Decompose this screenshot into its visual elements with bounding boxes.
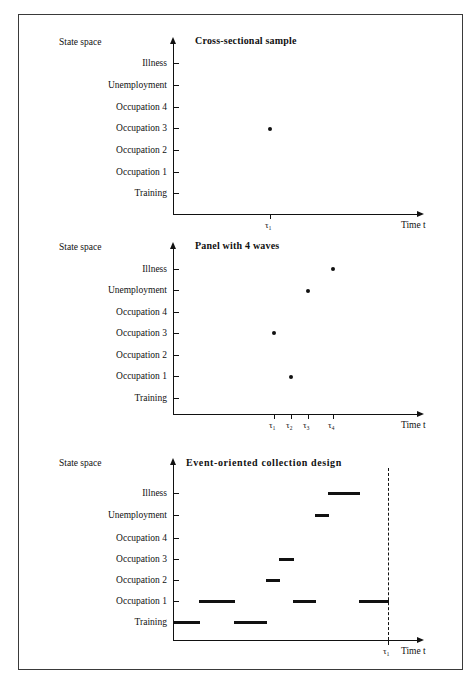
panel3-spell-unemployment	[315, 514, 329, 517]
panel2-xtick-tau3	[308, 414, 309, 419]
panel3-state-space-label: State space	[59, 458, 101, 468]
panel2-x-axis	[173, 414, 419, 415]
panel3-ylabel-illness: Illness	[55, 488, 167, 498]
panel3-ytick-unemployment	[173, 515, 179, 516]
panel1-datapoint-occupation-3	[268, 127, 272, 131]
panel2-ytick-unemployment	[173, 290, 179, 291]
panel2-ylabel-occupation-3: Occupation 3	[55, 328, 167, 338]
panel1-ylabel-unemployment: Unemployment	[55, 80, 167, 90]
panel3-ylabel-occupation-4: Occupation 4	[55, 533, 167, 543]
panel2-xlabel-tau2: τ₂	[286, 420, 293, 430]
panel3-ytick-illness	[173, 493, 179, 494]
panel1-ylabel-training: Training	[55, 188, 167, 198]
panel3-ylabel-unemployment: Unemployment	[55, 510, 167, 520]
panel2-ytick-occupation-4	[173, 312, 179, 313]
panel2-ylabel-illness: Illness	[55, 264, 167, 274]
panel1-ytick-illness	[173, 63, 179, 64]
panel2-y-axis	[173, 248, 174, 415]
panel-event-oriented: State space Event-oriented collection de…	[19, 435, 464, 671]
panel2-ytick-occupation-2	[173, 355, 179, 356]
panel-4-waves: State space Panel with 4 waves Illness U…	[19, 220, 464, 435]
panel2-ytick-illness	[173, 269, 179, 270]
panel3-y-axis-arrowhead	[170, 458, 176, 465]
panel1-ytick-occupation-2	[173, 150, 179, 151]
panel3-title: Event-oriented collection design	[186, 457, 342, 468]
panel3-spell-occupation-2	[266, 579, 280, 582]
panel1-ytick-unemployment	[173, 85, 179, 86]
panel3-censoring-dashed-line	[388, 468, 389, 640]
panel2-xtick-tau1	[274, 414, 275, 419]
panel2-state-space-label: State space	[59, 242, 101, 252]
panel3-ylabel-occupation-1: Occupation 1	[55, 596, 167, 606]
panel1-x-axis	[173, 214, 419, 215]
panel2-datapoint-occupation-1	[289, 375, 293, 379]
panel3-ylabel-occupation-3: Occupation 3	[55, 554, 167, 564]
panel2-time-axis-label: Time t	[401, 420, 426, 430]
panel3-y-axis	[173, 464, 174, 641]
panel2-ylabel-occupation-1: Occupation 1	[55, 371, 167, 381]
panel3-spell-illness	[328, 492, 360, 495]
panel2-ylabel-occupation-4: Occupation 4	[55, 307, 167, 317]
panel1-title: Cross-sectional sample	[195, 35, 297, 46]
panel1-ylabel-occupation-3: Occupation 3	[55, 123, 167, 133]
panel1-state-space-label: State space	[59, 37, 101, 47]
panel3-ylabel-training: Training	[55, 617, 167, 627]
panel2-ytick-occupation-3	[173, 333, 179, 334]
panel2-xtick-tau2	[291, 414, 292, 419]
panel1-ylabel-occupation-1: Occupation 1	[55, 167, 167, 177]
panel2-x-axis-arrowhead	[417, 411, 424, 417]
panel3-x-axis-arrowhead	[417, 637, 424, 643]
panel2-ytick-training	[173, 398, 179, 399]
panel3-spell-training-2	[234, 621, 267, 624]
figure-page: State space Cross-sectional sample Illne…	[0, 0, 474, 686]
panel1-ytick-occupation-1	[173, 172, 179, 173]
panel1-ytick-occupation-3	[173, 128, 179, 129]
panel3-spell-occupation-3	[279, 558, 294, 561]
panel1-ytick-training	[173, 193, 179, 194]
panel1-ylabel-illness: Illness	[55, 58, 167, 68]
panel3-ytick-occupation-1	[173, 601, 179, 602]
panel3-time-axis-label: Time t	[401, 646, 426, 656]
panel3-ytick-occupation-2	[173, 580, 179, 581]
panel2-xlabel-tau4: τ₄	[328, 420, 335, 430]
panel2-datapoint-illness	[331, 267, 335, 271]
panel2-ylabel-training: Training	[55, 393, 167, 403]
panel3-spell-occupation-1-c	[359, 600, 389, 603]
panel3-spell-occupation-1-a	[199, 600, 235, 603]
panel3-ylabel-occupation-2: Occupation 2	[55, 575, 167, 585]
figure-border: State space Cross-sectional sample Illne…	[18, 14, 463, 670]
panel1-xtick-tau1	[270, 214, 271, 219]
panel3-xlabel-tau1: τ₁	[383, 646, 390, 656]
panel-cross-sectional: State space Cross-sectional sample Illne…	[19, 15, 464, 230]
panel3-xtick-tau1	[388, 640, 389, 645]
panel3-spell-occupation-1-b	[293, 600, 316, 603]
panel2-xlabel-tau1: τ₁	[269, 420, 276, 430]
panel1-ytick-occupation-4	[173, 107, 179, 108]
panel3-ytick-occupation-4	[173, 538, 179, 539]
panel2-xtick-tau4	[333, 414, 334, 419]
panel1-x-axis-arrowhead	[417, 211, 424, 217]
panel2-ytick-occupation-1	[173, 376, 179, 377]
panel2-datapoint-unemployment	[306, 289, 310, 293]
panel3-ytick-occupation-3	[173, 559, 179, 560]
panel2-ylabel-occupation-2: Occupation 2	[55, 350, 167, 360]
panel2-xlabel-tau3: τ₃	[303, 420, 310, 430]
panel1-ylabel-occupation-2: Occupation 2	[55, 145, 167, 155]
panel1-y-axis-arrowhead	[170, 37, 176, 44]
panel1-y-axis	[173, 43, 174, 215]
panel3-spell-training-1	[173, 621, 200, 624]
panel3-x-axis	[173, 640, 419, 641]
panel1-ylabel-occupation-4: Occupation 4	[55, 102, 167, 112]
panel2-title: Panel with 4 waves	[195, 240, 279, 251]
panel2-y-axis-arrowhead	[170, 242, 176, 249]
panel2-ylabel-unemployment: Unemployment	[55, 285, 167, 295]
panel2-datapoint-occupation-3	[272, 331, 276, 335]
